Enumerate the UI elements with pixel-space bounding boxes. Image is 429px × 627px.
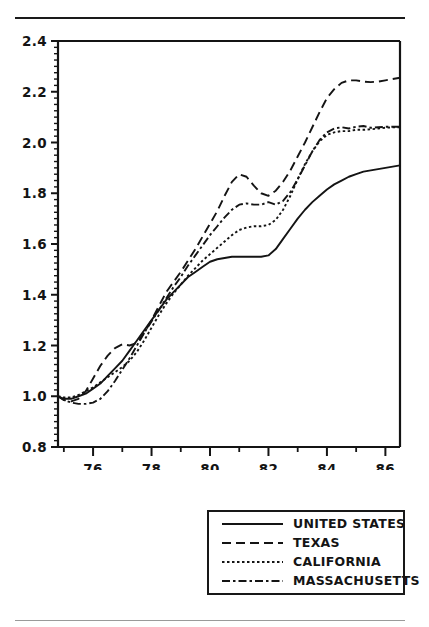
y-axis-tick-label: 0.8 bbox=[22, 439, 47, 455]
x-axis-tick-label: 82 bbox=[259, 461, 279, 470]
series-line-massachusetts bbox=[58, 126, 400, 404]
x-axis-tick-label: 86 bbox=[376, 461, 396, 470]
y-axis-tick-label: 2.4 bbox=[22, 33, 47, 49]
y-axis-tick-label: 1.4 bbox=[22, 287, 47, 303]
bottom-horizontal-rule bbox=[15, 620, 405, 621]
legend-line-sample-dashdot bbox=[221, 575, 284, 587]
legend-item-label: UNITED STATES bbox=[293, 518, 405, 530]
legend-line-sample-dashed bbox=[221, 537, 284, 549]
x-axis-tick-label: 80 bbox=[200, 461, 220, 470]
legend-item-label: TEXAS bbox=[293, 537, 340, 549]
series-line-california bbox=[58, 127, 400, 397]
legend-item: MASSACHUSETTS bbox=[209, 572, 403, 591]
legend-item-label: MASSACHUSETTS bbox=[293, 575, 420, 587]
x-axis-tick-label: 78 bbox=[142, 461, 162, 470]
legend-item: TEXAS bbox=[209, 534, 403, 553]
legend-item: UNITED STATES bbox=[209, 515, 403, 534]
figure-page: 0.81.01.21.41.61.82.02.22.4767880828486 … bbox=[0, 0, 429, 627]
chart-plot-area: 0.81.01.21.41.61.82.02.22.4767880828486 bbox=[0, 0, 429, 470]
chart-legend: UNITED STATESTEXASCALIFORNIAMASSACHUSETT… bbox=[207, 510, 405, 595]
x-axis-tick-label: 84 bbox=[317, 461, 337, 470]
legend-item: CALIFORNIA bbox=[209, 553, 403, 572]
x-axis-tick-label: 76 bbox=[83, 461, 103, 470]
y-axis-tick-label: 2.2 bbox=[22, 84, 47, 100]
line-chart: 0.81.01.21.41.61.82.02.22.4767880828486 bbox=[0, 0, 429, 470]
y-axis-tick-label: 1.0 bbox=[22, 388, 47, 404]
y-axis-tick-label: 1.6 bbox=[22, 236, 47, 252]
y-axis-tick-label: 2.0 bbox=[22, 135, 47, 151]
legend-item-label: CALIFORNIA bbox=[293, 556, 381, 568]
series-line-texas bbox=[58, 78, 400, 402]
y-axis-tick-label: 1.2 bbox=[22, 338, 47, 354]
series-line-united-states bbox=[58, 165, 400, 398]
legend-line-sample-dotted bbox=[221, 556, 284, 568]
y-axis-tick-label: 1.8 bbox=[22, 185, 47, 201]
legend-line-sample-solid bbox=[221, 518, 284, 530]
